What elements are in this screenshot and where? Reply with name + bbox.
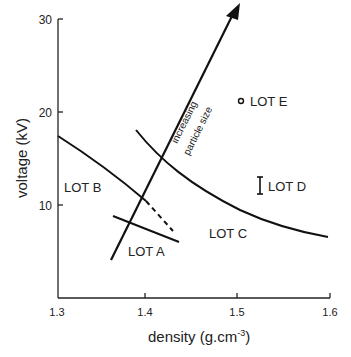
arrow-head-icon	[226, 3, 240, 20]
x-tick-1-5: 1.5	[229, 306, 244, 318]
x-tick-1-4: 1.4	[137, 306, 152, 318]
x-tick-1-3: 1.3	[49, 306, 64, 318]
y-tick-10: 10	[39, 199, 53, 213]
lot-e-marker	[239, 99, 244, 104]
x-axis-label: density (g.cm-3)	[148, 328, 250, 345]
x-tick-1-6: 1.6	[322, 306, 337, 318]
chart: 30 20 10 1.3 1.4 1.5 1.6 density (g.cm-3…	[0, 0, 351, 357]
y-tick-30: 30	[39, 13, 53, 27]
lot-e-label: LOT E	[250, 94, 288, 109]
lot-a-label: LOT A	[128, 244, 165, 259]
lot-b-label: LOT B	[64, 180, 101, 195]
lot-c-label: LOT C	[209, 226, 247, 241]
lot-b-dashed-curve	[146, 201, 173, 231]
y-axis-label: voltage (kV)	[13, 118, 30, 198]
y-tick-20: 20	[39, 106, 53, 120]
axes	[58, 19, 330, 298]
lot-d-errorbar	[257, 177, 263, 194]
lot-d-label: LOT D	[268, 179, 306, 194]
